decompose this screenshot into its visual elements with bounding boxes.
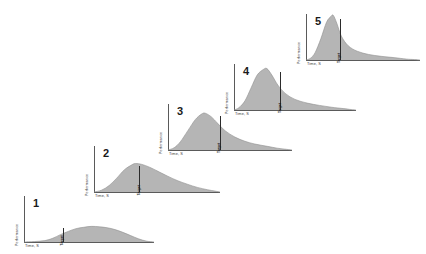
x-axis-label-1: Time, S — [25, 244, 39, 248]
y-axis-label-2: Performance — [85, 174, 89, 196]
target-marker-label-3: Target — [217, 143, 221, 153]
x-axis-label-3: Time, S — [169, 152, 183, 156]
distribution-curve-2 — [94, 146, 220, 193]
distribution-curve-3 — [168, 104, 292, 151]
figure-canvas: PerformanceTime, S1TargetPerformanceTime… — [0, 0, 426, 254]
chart-panel-1: PerformanceTime, S1Target — [24, 196, 154, 242]
x-axis-label-4: Time, S — [235, 112, 249, 116]
chart-panel-5: PerformanceTime, S5Target — [306, 14, 420, 60]
y-axis-label-3: Performance — [159, 132, 163, 154]
distribution-curve-5 — [306, 14, 420, 61]
y-axis-label-5: Performance — [297, 42, 301, 64]
y-axis-label-1: Performance — [15, 224, 19, 246]
chart-panel-2: PerformanceTime, S2Target — [94, 146, 220, 192]
x-axis-label-5: Time, S — [307, 62, 321, 66]
target-marker-label-4: Target — [278, 103, 282, 113]
y-axis-label-4: Performance — [225, 92, 229, 114]
distribution-curve-1 — [24, 196, 154, 243]
target-marker-label-2: Target — [137, 185, 141, 195]
x-axis-label-2: Time, S — [95, 194, 109, 198]
target-marker-label-5: Target — [337, 53, 341, 63]
chart-panel-4: PerformanceTime, S4Target — [234, 64, 356, 110]
target-marker-label-1: Target — [60, 235, 64, 245]
distribution-curve-4 — [234, 64, 356, 111]
